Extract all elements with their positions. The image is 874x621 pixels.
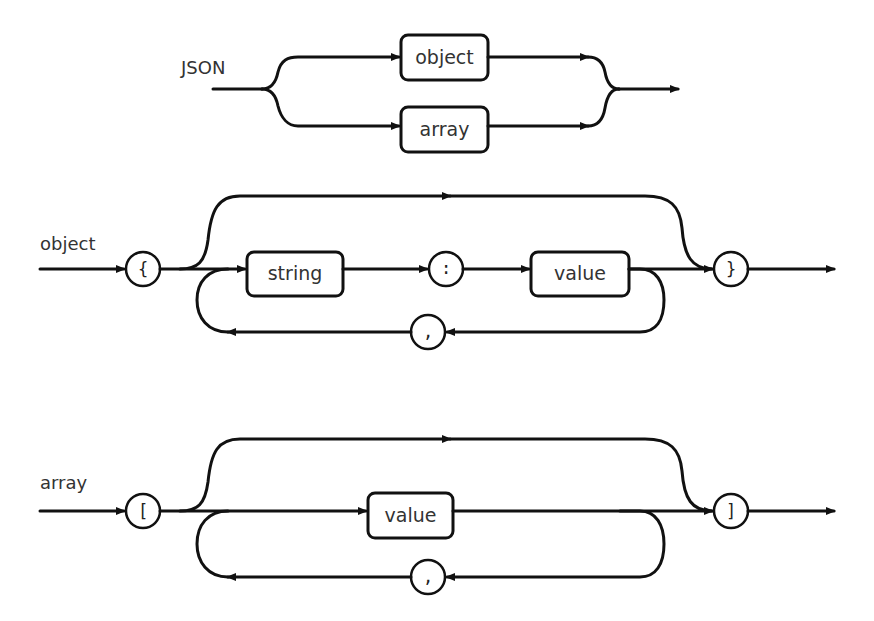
rule-label-json: JSON: [180, 57, 225, 78]
svg-text:[: [: [138, 501, 148, 521]
rule-object: object { string : value: [40, 196, 834, 349]
svg-text:,: ,: [423, 567, 433, 587]
terminal-open-bracket: [: [126, 494, 160, 528]
rule-label-array: array: [40, 472, 88, 493]
terminal-colon: :: [429, 252, 463, 286]
svg-text:]: ]: [726, 501, 736, 521]
svg-text:}: }: [726, 259, 736, 279]
nonterminal-array: array: [401, 107, 488, 152]
rule-json: JSON object array: [180, 35, 678, 152]
json-syntax-diagram: JSON object array object {: [0, 0, 874, 621]
nonterminal-string: string: [247, 252, 343, 296]
terminal-array-comma: ,: [411, 560, 445, 594]
array-repeat-loop: [447, 511, 664, 577]
rule-array: array [ value ] ,: [40, 439, 834, 594]
terminal-open-brace: {: [126, 252, 160, 286]
svg-text:array: array: [420, 118, 470, 140]
rule-label-object: object: [40, 233, 95, 254]
svg-text::: :: [441, 258, 451, 278]
nonterminal-array-value: value: [368, 493, 453, 538]
svg-text:,: ,: [423, 322, 433, 342]
terminal-comma: ,: [411, 315, 445, 349]
terminal-close-bracket: ]: [714, 494, 748, 528]
json-branch-object-in: [262, 57, 399, 89]
svg-text:{: {: [138, 259, 148, 279]
json-branch-array-in: [262, 89, 399, 126]
terminal-close-brace: }: [714, 252, 748, 286]
svg-text:value: value: [385, 504, 437, 526]
svg-text:string: string: [268, 262, 323, 284]
nonterminal-object: object: [401, 35, 488, 80]
svg-text:object: object: [415, 46, 474, 68]
svg-text:value: value: [554, 262, 606, 284]
nonterminal-value: value: [531, 252, 629, 296]
